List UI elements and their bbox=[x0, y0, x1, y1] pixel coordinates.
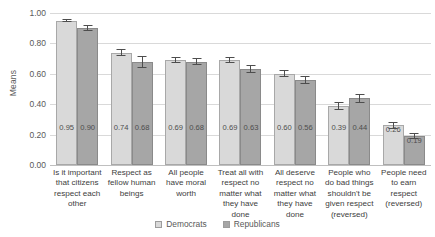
bar-value-label: 0.90 bbox=[80, 124, 95, 132]
error-bar bbox=[355, 94, 364, 103]
y-axis-tick-label: 0.20 bbox=[20, 130, 46, 140]
error-bar-cap-bottom bbox=[62, 21, 71, 22]
legend-swatch bbox=[155, 221, 162, 228]
bar-value-label: 0.69 bbox=[223, 124, 238, 132]
x-axis-category-label: All deserve respect no matter what they … bbox=[268, 168, 322, 220]
bar-democrats[interactable]: 0.26 bbox=[383, 125, 404, 165]
error-bar bbox=[171, 57, 180, 62]
x-axis-category-label: All people have moral worth bbox=[159, 168, 213, 220]
x-axis-category-labels: Is it important that citizens respect ea… bbox=[50, 168, 431, 220]
bar-value-label: 0.63 bbox=[244, 124, 259, 132]
bar-slot: 0.39 bbox=[328, 13, 349, 165]
error-bar-cap-top bbox=[355, 94, 364, 95]
error-bar-cap-bottom bbox=[225, 62, 234, 63]
bar-slot: 0.90 bbox=[77, 13, 98, 165]
error-bar bbox=[301, 76, 310, 84]
bar-group: 0.690.63 bbox=[213, 13, 267, 165]
error-bar-cap-top bbox=[225, 57, 234, 58]
legend-swatch bbox=[223, 221, 230, 228]
error-bar bbox=[138, 56, 147, 68]
error-bar bbox=[389, 122, 398, 130]
error-bar-cap-top bbox=[192, 58, 201, 59]
error-bar-cap-bottom bbox=[410, 138, 419, 139]
bar-slot: 0.44 bbox=[349, 13, 370, 165]
bar-slot: 0.69 bbox=[165, 13, 186, 165]
bar-group: 0.390.44 bbox=[322, 13, 376, 165]
legend-item-democrats[interactable]: Democrats bbox=[155, 219, 207, 229]
bar-republicans[interactable]: 0.63 bbox=[240, 69, 261, 165]
bar-slot: 0.69 bbox=[219, 13, 240, 165]
plot-area: 0.950.900.740.680.690.680.690.630.600.56… bbox=[50, 13, 431, 165]
bar-group: 0.690.68 bbox=[159, 13, 213, 165]
bar-republicans[interactable]: 0.90 bbox=[77, 28, 98, 165]
bar-republicans[interactable]: 0.19 bbox=[404, 136, 425, 165]
bar-republicans[interactable]: 0.56 bbox=[295, 80, 316, 165]
y-axis-tick-labels: 1.000.800.600.400.200.00 bbox=[20, 8, 46, 170]
bar-democrats[interactable]: 0.95 bbox=[56, 21, 77, 165]
error-bar bbox=[334, 102, 343, 110]
bar-chart: Means 1.000.800.600.400.200.00 0.950.900… bbox=[0, 0, 435, 237]
x-axis-category-label: Respect as fellow human beings bbox=[104, 168, 158, 220]
bar-slot: 0.60 bbox=[274, 13, 295, 165]
bar-republicans[interactable]: 0.68 bbox=[132, 62, 153, 165]
bar-value-label: 0.74 bbox=[114, 124, 129, 132]
bar-slot: 0.68 bbox=[186, 13, 207, 165]
error-bar-cap-top bbox=[246, 65, 255, 66]
error-bar-cap-bottom bbox=[192, 64, 201, 65]
error-bar bbox=[410, 133, 419, 140]
error-bar-cap-top bbox=[138, 56, 147, 57]
error-bar-cap-top bbox=[280, 70, 289, 71]
error-bar bbox=[280, 70, 289, 77]
x-axis-category-label: People need to earn respect (reversed) bbox=[377, 168, 431, 220]
error-bar-cap-bottom bbox=[334, 109, 343, 110]
bar-group: 0.260.19 bbox=[377, 13, 431, 165]
bar-republicans[interactable]: 0.44 bbox=[349, 98, 370, 165]
error-bar bbox=[225, 57, 234, 64]
error-bar-cap-bottom bbox=[117, 55, 126, 56]
error-bar-cap-top bbox=[410, 133, 419, 134]
bar-democrats[interactable]: 0.69 bbox=[165, 60, 186, 165]
bar-slot: 0.63 bbox=[240, 13, 261, 165]
bar-group: 0.950.90 bbox=[50, 13, 104, 165]
bar-democrats[interactable]: 0.74 bbox=[111, 53, 132, 165]
bar-value-label: 0.68 bbox=[135, 124, 150, 132]
error-bar-cap-bottom bbox=[355, 102, 364, 103]
bar-slot: 0.74 bbox=[111, 13, 132, 165]
error-bar bbox=[62, 19, 71, 23]
bar-democrats[interactable]: 0.69 bbox=[219, 60, 240, 165]
bar-democrats[interactable]: 0.60 bbox=[274, 74, 295, 165]
bar-value-label: 0.39 bbox=[331, 124, 346, 132]
error-bar bbox=[192, 58, 201, 65]
y-axis-tick-label: 0.60 bbox=[20, 69, 46, 79]
y-axis-tick-label: 1.00 bbox=[20, 8, 46, 18]
legend-item-republicans[interactable]: Republicans bbox=[223, 219, 280, 229]
error-bar-cap-bottom bbox=[301, 83, 310, 84]
error-bar-cap-top bbox=[389, 122, 398, 123]
error-bar bbox=[117, 49, 126, 56]
bar-group: 0.600.56 bbox=[268, 13, 322, 165]
bar-value-label: 0.69 bbox=[168, 124, 183, 132]
error-bar-cap-bottom bbox=[171, 62, 180, 63]
y-axis-tick-label: 0.40 bbox=[20, 99, 46, 109]
error-bar bbox=[83, 25, 92, 30]
legend-label: Republicans bbox=[234, 219, 280, 229]
y-axis-tick-label: 0.80 bbox=[20, 38, 46, 48]
bar-group: 0.740.68 bbox=[104, 13, 158, 165]
error-bar-cap-top bbox=[117, 49, 126, 50]
bar-republicans[interactable]: 0.68 bbox=[186, 62, 207, 165]
bar-democrats[interactable]: 0.39 bbox=[328, 106, 349, 165]
error-bar-cap-bottom bbox=[83, 30, 92, 31]
chart-legend: DemocratsRepublicans bbox=[0, 219, 435, 229]
error-bar-cap-bottom bbox=[389, 128, 398, 129]
bar-slot: 0.56 bbox=[295, 13, 316, 165]
y-axis-tick-label: 0.00 bbox=[20, 160, 46, 170]
error-bar-cap-bottom bbox=[138, 67, 147, 68]
bar-value-label: 0.95 bbox=[59, 124, 74, 132]
bar-slot: 0.95 bbox=[56, 13, 77, 165]
error-bar-cap-bottom bbox=[246, 72, 255, 73]
error-bar bbox=[246, 65, 255, 74]
x-axis-category-label: Treat all with respect no matter what th… bbox=[213, 168, 267, 220]
x-axis-category-label: Is it important that citizens respect ea… bbox=[50, 168, 104, 220]
bar-value-label: 0.44 bbox=[352, 124, 367, 132]
error-bar-cap-top bbox=[83, 25, 92, 26]
